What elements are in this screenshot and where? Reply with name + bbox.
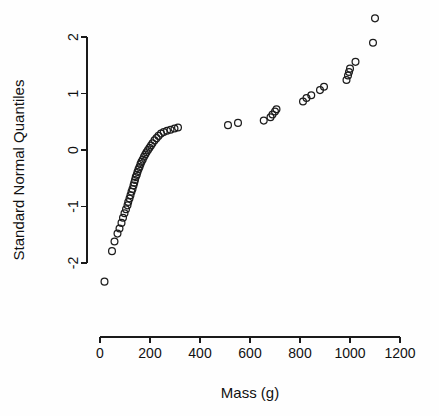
data-point (101, 278, 108, 285)
scatter-plot-canvas: -2-1012 020040060080010001200 Mass (g) S… (0, 0, 439, 416)
y-tick-label: -1 (65, 200, 81, 213)
x-axis-group: 020040060080010001200 (96, 337, 416, 361)
data-point (111, 238, 118, 245)
y-tick-label: -2 (65, 257, 81, 270)
x-tick-label: 800 (288, 345, 312, 361)
data-point (372, 15, 379, 22)
data-point (235, 119, 242, 126)
x-tick-label: 200 (138, 345, 162, 361)
data-points-layer (101, 15, 378, 285)
x-tick-label: 600 (238, 345, 262, 361)
y-tick-label: 1 (65, 89, 81, 97)
data-point (370, 39, 377, 46)
y-axis-ticks: -2-1012 (65, 33, 87, 269)
data-point (225, 122, 232, 129)
y-axis-group: -2-1012 (65, 33, 87, 269)
data-point (273, 106, 280, 113)
x-axis-title: Mass (g) (221, 384, 279, 401)
x-axis-ticks: 020040060080010001200 (96, 337, 416, 361)
data-point (123, 206, 130, 213)
y-tick-label: 0 (65, 146, 81, 154)
y-tick-label: 2 (65, 33, 81, 41)
x-tick-label: 400 (188, 345, 212, 361)
data-point (121, 210, 128, 217)
data-point (352, 58, 359, 65)
x-tick-label: 1000 (334, 345, 365, 361)
data-point (260, 117, 267, 124)
data-point (343, 77, 350, 84)
x-tick-label: 0 (96, 345, 104, 361)
data-point (109, 248, 116, 255)
qq-plot-figure: -2-1012 020040060080010001200 Mass (g) S… (0, 0, 439, 416)
y-axis-title: Standard Normal Quantiles (10, 80, 27, 261)
x-tick-label: 1200 (384, 345, 415, 361)
